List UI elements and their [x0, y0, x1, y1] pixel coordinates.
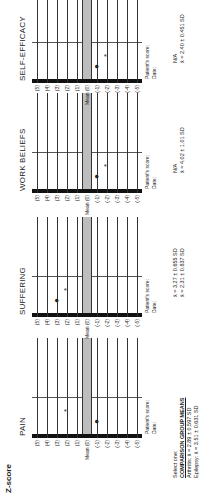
row-line [117, 338, 118, 438]
row-label: (5) [34, 195, 40, 215]
row-label: (4) [44, 319, 50, 339]
row-line [137, 93, 138, 193]
row-line [57, 338, 58, 438]
row-label: (-2) [104, 319, 110, 339]
date-label: Date: [151, 422, 158, 434]
row-label: (-2) [104, 195, 110, 215]
row-line [127, 338, 128, 438]
row-label: (2) [64, 195, 70, 215]
row-label: (-2) [104, 85, 110, 105]
row-label: Mean (0) [84, 440, 90, 460]
row-line [47, 0, 48, 83]
row-label: (-3) [114, 319, 120, 339]
row-line [127, 93, 128, 193]
comparison-stat: N/A [172, 164, 179, 173]
patient-star-marker: * [103, 164, 111, 167]
panel-suffering: SUFFERING●*Patient's score:Date: [14, 217, 146, 317]
patient-score-label: Patient's score: [144, 400, 151, 434]
date-label: Date: [151, 301, 158, 313]
row-label: (-5) [134, 319, 140, 339]
row-label: (-5) [134, 85, 140, 105]
row-line [137, 338, 138, 438]
date-label: Date: [151, 67, 158, 79]
row-label: (-3) [114, 85, 120, 105]
row-line [77, 93, 78, 193]
row-label: (2) [64, 440, 70, 460]
score-grid: ●* [32, 0, 142, 83]
row-label: (1) [74, 319, 80, 339]
row-label: (-1) [94, 85, 100, 105]
row-label: (5) [34, 319, 40, 339]
row-line [97, 217, 98, 317]
row-line [47, 338, 48, 438]
comparison-stat: x̄ = 3.27 ± 0.655 SD [172, 248, 179, 297]
row-label: (5) [34, 440, 40, 460]
patient-star-marker: * [63, 288, 71, 291]
row-line [57, 93, 58, 193]
row-label: (-2) [104, 440, 110, 460]
baseline-bar [32, 189, 142, 193]
patient-star-marker: * [103, 54, 111, 57]
row-line [67, 217, 68, 317]
row-label: Mean (0) [84, 85, 90, 105]
patient-dot-marker: ● [93, 419, 101, 424]
row-line [37, 0, 38, 83]
comparison-stat: Arthritis: x̄ = 2.89 ± 0.597 SD [186, 408, 193, 478]
row-label: (3) [54, 319, 60, 339]
row-label: (-3) [114, 195, 120, 215]
row-label: (-1) [94, 195, 100, 215]
row-label: (5) [34, 85, 40, 105]
row-line [67, 93, 68, 193]
row-line [77, 338, 78, 438]
panel-self-efficacy: SELF-EFFICACY●*Patient's score:Date: [14, 0, 146, 83]
row-label: (-4) [124, 195, 130, 215]
comparison-stat: x̄ = 2.40 ± 0.451 SD [179, 14, 186, 63]
patient-score-label: Patient's score: [144, 279, 151, 313]
form-title: Z-score [4, 464, 13, 493]
row-label: Mean (0) [84, 319, 90, 339]
row-line [107, 217, 108, 317]
score-grid: ●* [32, 217, 142, 317]
zscore-form: Z-score PAIN●*Patient's score:Date:(5)(4… [0, 0, 212, 499]
row-line [107, 0, 108, 83]
panel-pain: PAIN●*Patient's score:Date: [14, 338, 146, 438]
patient-dot-marker: ● [93, 174, 101, 179]
baseline-bar [32, 434, 142, 438]
row-label: (1) [74, 85, 80, 105]
comparison-stat: x̄ = 2.31 ± 0.837 SD [179, 248, 186, 297]
baseline-bar [32, 79, 142, 83]
patient-dot-marker: ● [93, 64, 101, 69]
row-line [137, 217, 138, 317]
row-line [37, 338, 38, 438]
row-label: (4) [44, 440, 50, 460]
row-line [107, 338, 108, 438]
row-label: (3) [54, 195, 60, 215]
row-line [77, 217, 78, 317]
row-label: (-5) [134, 440, 140, 460]
row-label: (-1) [94, 319, 100, 339]
comparison-stat: N/A [172, 54, 179, 63]
comparison-stat: x̄ = 4.02 ± 1.01 SD [179, 127, 186, 173]
row-line [117, 0, 118, 83]
row-label: (2) [64, 319, 70, 339]
row-line [127, 0, 128, 83]
comparison-stat: COMPARISON GROUP MEANS [179, 398, 186, 478]
row-label: (3) [54, 85, 60, 105]
row-line [67, 338, 68, 438]
patient-score-label: Patient's score: [144, 155, 151, 189]
row-line [57, 0, 58, 83]
row-line [37, 217, 38, 317]
row-label: (-5) [134, 195, 140, 215]
row-label: (1) [74, 195, 80, 215]
row-label: (-1) [94, 440, 100, 460]
row-line [137, 0, 138, 83]
row-label: (-4) [124, 440, 130, 460]
mean-band [82, 217, 92, 313]
panel-title: SELF-EFFICACY [18, 16, 27, 81]
row-line [47, 217, 48, 317]
row-line [67, 0, 68, 83]
comparison-stat: Select one: [172, 450, 179, 478]
patient-star-marker: * [63, 409, 71, 412]
row-line [107, 93, 108, 193]
row-label: (4) [44, 85, 50, 105]
